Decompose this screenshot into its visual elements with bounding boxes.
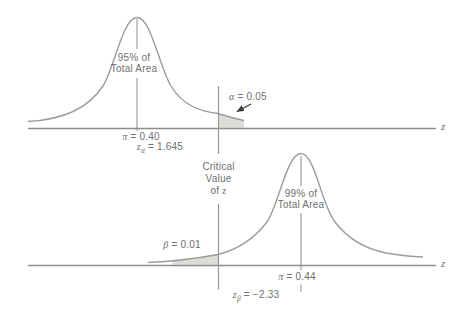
critical-caption-line2: Value	[178, 173, 259, 185]
top-area-label: 95% of Total Area	[94, 52, 174, 74]
z-alpha-label: zα = 1.645	[120, 141, 200, 152]
alpha-tail-shaded-region	[219, 114, 245, 128]
z-beta-label: zβ = −2.33	[216, 289, 296, 300]
alpha-tail-label: α = 0.05	[229, 91, 267, 102]
beta-tail-label: β = 0.01	[142, 239, 222, 250]
bottom-mean-label: π = 0.44	[257, 271, 337, 282]
top-area-label-line1: 95% of	[94, 52, 174, 63]
top-area-label-line2: Total Area	[94, 63, 174, 74]
alpha-pointer-arrow	[237, 104, 251, 112]
critical-value-caption: Critical Value of z	[178, 161, 259, 197]
top-z-axis-label: z	[441, 121, 445, 132]
bottom-area-label-line2: Total Area	[261, 199, 341, 210]
bottom-area-label: 99% of Total Area	[261, 188, 341, 210]
critical-value-of-z-diagram: 95% of Total Area π = 0.40 zα = 1.645 α …	[0, 0, 463, 323]
critical-caption-line1: Critical	[178, 161, 259, 173]
bottom-area-label-line1: 99% of	[261, 188, 341, 199]
bottom-z-axis-label: z	[441, 258, 445, 269]
critical-caption-line3: of z	[178, 185, 259, 197]
z-symbol: z	[222, 185, 226, 196]
